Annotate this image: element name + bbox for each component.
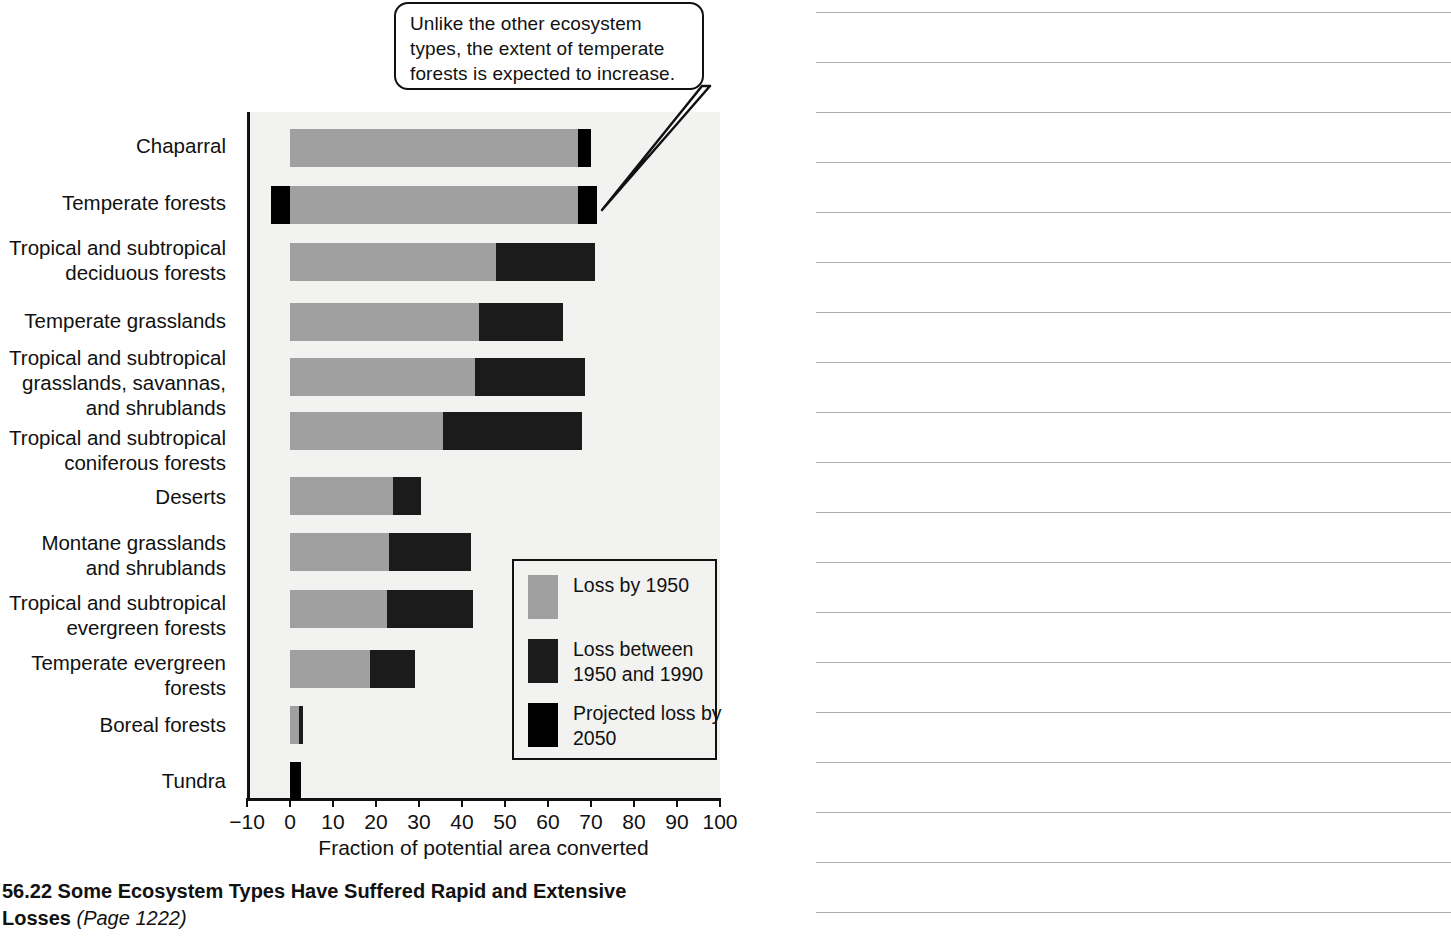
- note-rule-line: [816, 712, 1451, 713]
- legend-swatch-loss-1950-1990: [528, 639, 558, 683]
- bar-deserts: [0, 477, 816, 515]
- legend-label-0: Loss by 1950: [573, 573, 733, 598]
- bar-segment-loss-by-1950: [290, 358, 475, 396]
- bar-segment-loss-between-1950-and-1990: [479, 303, 563, 341]
- bar-segment-loss-by-1950: [290, 243, 496, 281]
- note-rule-line: [816, 162, 1451, 163]
- bar-segment-loss-between-1950-and-1990: [496, 243, 595, 281]
- note-rule-line: [816, 512, 1451, 513]
- bar-tropical-and-subtropical-coniferous-fore: [0, 412, 816, 450]
- bar-tundra: [0, 762, 816, 800]
- note-rule-line: [816, 612, 1451, 613]
- note-rule-line: [816, 362, 1451, 363]
- bar-chart-figure: Unlike the other ecosystem types, the ex…: [0, 0, 816, 939]
- bar-segment-loss-by-1950: [290, 590, 387, 628]
- caption-page-reference: (Page 1222): [77, 907, 187, 929]
- bar-tropical-and-subtropical-deciduous-fores: [0, 243, 816, 281]
- note-rule-line: [816, 262, 1451, 263]
- note-rule-line: [816, 62, 1451, 63]
- callout-tail-icon: [560, 84, 720, 214]
- bar-segment-loss-by-1950: [290, 533, 389, 571]
- note-rule-line: [816, 562, 1451, 563]
- note-rule-line: [816, 862, 1451, 863]
- bar-segment-loss-between-1950-and-1990: [393, 477, 421, 515]
- bar-segment-loss-between-1950-and-1990: [370, 650, 415, 688]
- note-rule-line: [816, 462, 1451, 463]
- bar-segment-loss-by-1950: [290, 706, 299, 744]
- chart-legend: Loss by 1950 Loss between 1950 and 1990 …: [512, 559, 717, 760]
- legend-swatch-projected-2050: [528, 703, 558, 747]
- legend-label-1: Loss between 1950 and 1990: [573, 637, 733, 687]
- note-rule-line: [816, 112, 1451, 113]
- note-rule-line: [816, 412, 1451, 413]
- figure-page: Unlike the other ecosystem types, the ex…: [0, 0, 1451, 939]
- bar-segment-loss-between-1950-and-1990: [475, 358, 585, 396]
- bar-segment-loss-between-1950-and-1990: [443, 412, 583, 450]
- legend-swatch-loss-by-1950: [528, 575, 558, 619]
- bar-segment-loss-between-1950-and-1990: [299, 706, 303, 744]
- bar-temperate-grasslands: [0, 303, 816, 341]
- bar-segment-loss-by-1950: [290, 412, 443, 450]
- callout-annotation: Unlike the other ecosystem types, the ex…: [394, 2, 704, 90]
- bar-tropical-and-subtropical-grasslands-sava: [0, 358, 816, 396]
- bar-segment-loss-by-1950: [290, 477, 393, 515]
- note-rule-line: [816, 212, 1451, 213]
- figure-caption: 56.22 Some Ecosystem Types Have Suffered…: [2, 878, 642, 932]
- note-rule-line: [816, 12, 1451, 13]
- legend-label-2: Projected loss by 2050: [573, 701, 733, 751]
- note-rule-line: [816, 312, 1451, 313]
- x-tick-label-100: 100: [690, 808, 750, 836]
- note-rule-line: [816, 762, 1451, 763]
- bar-segment-projected-negative: [271, 186, 290, 224]
- bar-segment-projected-loss-by-2050: [290, 762, 301, 800]
- category-label-tropical-coniferous-2: coniferous forests: [0, 450, 226, 475]
- bar-segment-loss-by-1950: [290, 186, 578, 224]
- x-axis-title: Fraction of potential area converted: [247, 836, 720, 860]
- bar-segment-loss-by-1950: [290, 650, 370, 688]
- ruled-note-area: [816, 0, 1451, 939]
- bar-segment-loss-between-1950-and-1990: [387, 590, 473, 628]
- note-rule-line: [816, 812, 1451, 813]
- callout-text: Unlike the other ecosystem types, the ex…: [410, 13, 675, 84]
- note-rule-line: [816, 662, 1451, 663]
- bar-segment-loss-by-1950: [290, 303, 479, 341]
- bar-segment-loss-between-1950-and-1990: [389, 533, 471, 571]
- note-rule-line: [816, 912, 1451, 913]
- bar-segment-loss-by-1950: [290, 129, 578, 167]
